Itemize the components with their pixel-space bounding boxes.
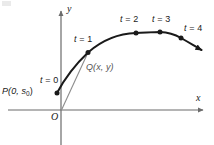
t-value-0: = 0: [43, 75, 59, 85]
point-label-P-subscript: 0: [26, 90, 30, 97]
t-marker-label-4: t = 4: [184, 24, 202, 33]
t-value-1: = 1: [77, 34, 93, 44]
x-axis-label: x: [196, 93, 201, 103]
t-marker-label-1: t = 1: [74, 35, 92, 44]
t-marker-label-2: t = 2: [120, 15, 138, 24]
point-label-P-main: P(0, s: [2, 86, 26, 96]
point-label-P-tail: ): [30, 86, 33, 96]
point-dot-t0: [55, 91, 60, 96]
figure-canvas: [0, 0, 214, 145]
point-label-P: P(0, s0): [2, 87, 33, 96]
origin-label: O: [51, 112, 58, 122]
t-marker-label-3: t = 3: [152, 15, 170, 24]
parametric-trajectory-figure: y x O t = 0 P(0, s0) t = 1 Q(x, y) t = 2…: [0, 0, 214, 145]
point-dot-t1: [86, 50, 91, 55]
point-dot-t3: [158, 30, 163, 35]
y-axis-label: y: [67, 4, 72, 14]
secant-line-OQ: [62, 53, 89, 111]
point-dot-t2: [134, 31, 139, 36]
t-marker-label-0: t = 0: [40, 76, 58, 85]
point-dot-t4: [179, 36, 184, 41]
t-value-2: = 2: [123, 14, 139, 24]
t-value-4: = 4: [187, 23, 203, 33]
point-label-Q: Q(x, y): [86, 63, 114, 72]
t-value-3: = 3: [155, 14, 171, 24]
